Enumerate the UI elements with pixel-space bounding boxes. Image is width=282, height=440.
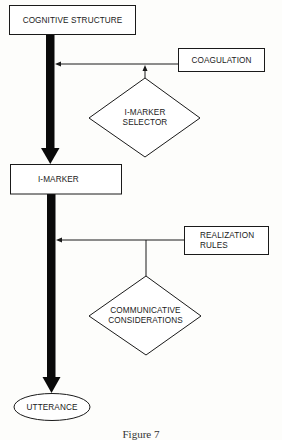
node-imarker: I-MARKER xyxy=(11,165,122,195)
node-coagulation: COAGULATION xyxy=(179,49,265,72)
coagulation-label: COAGULATION xyxy=(191,56,251,65)
cognitive-structure-label: COGNITIVE STRUCTURE xyxy=(23,16,123,25)
node-utterance: UTTERANCE xyxy=(14,394,90,421)
edge-coagulation-to-shaft xyxy=(55,62,178,67)
edge-realization-to-shaft xyxy=(56,238,184,243)
imarker-selector-label-line2: SELECTOR xyxy=(123,118,168,127)
imarker-label: I-MARKER xyxy=(38,175,79,184)
edge-selector-to-coagulation-line xyxy=(143,65,148,78)
arrowhead-up-icon xyxy=(143,65,148,71)
communicative-considerations-label-line1: COMMUNICATIVE xyxy=(110,306,181,315)
arrowhead-left-icon xyxy=(56,238,62,243)
node-imarker-selector: I-MARKER SELECTOR xyxy=(89,78,200,157)
realization-rules-label-line2: RULES xyxy=(200,241,228,250)
figure-caption: Figure 7 xyxy=(0,428,282,440)
thick-arrow-imarker-to-utterance xyxy=(43,194,61,393)
node-realization-rules: REALIZATION RULES xyxy=(185,227,269,255)
arrowhead-left-icon xyxy=(55,62,61,67)
utterance-label: UTTERANCE xyxy=(27,403,78,412)
realization-rules-label-line1: REALIZATION xyxy=(200,231,254,240)
imarker-selector-label-line1: I-MARKER xyxy=(125,108,166,117)
thick-arrow-cognitive-to-imarker xyxy=(41,34,60,164)
node-communicative-considerations: COMMUNICATIVE CONSIDERATIONS xyxy=(89,276,201,355)
communicative-considerations-label-line2: CONSIDERATIONS xyxy=(108,316,183,325)
node-cognitive-structure: COGNITIVE STRUCTURE xyxy=(10,6,136,35)
